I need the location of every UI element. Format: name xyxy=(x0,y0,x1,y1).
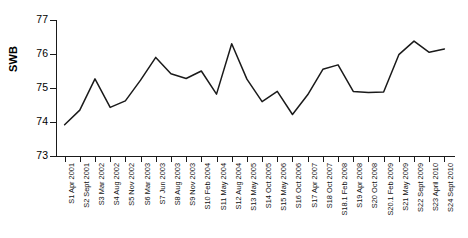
series-svg xyxy=(0,0,468,238)
series-line-swb xyxy=(65,41,445,125)
chart-container: SWB 7374757677 S1 Apr 2001S2 Sept 2001S3… xyxy=(0,0,468,238)
